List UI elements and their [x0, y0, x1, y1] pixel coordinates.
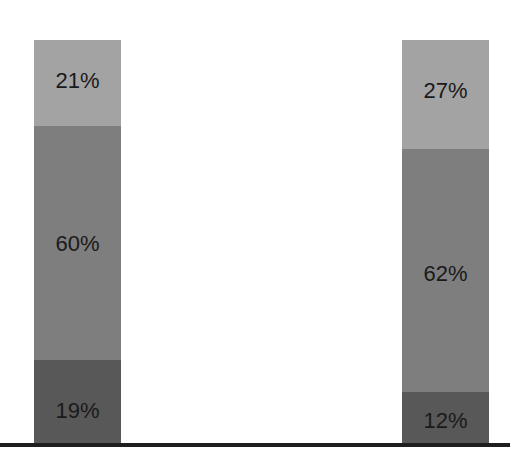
- bar-2-middle-segment: 62%: [402, 149, 489, 392]
- bar-2-bottom-label: 12%: [402, 408, 489, 434]
- x-axis-line: [0, 443, 510, 447]
- bar-1-middle-label: 60%: [34, 231, 121, 257]
- bar-2-top-label: 27%: [402, 78, 489, 104]
- bar-2: 27% 62% 12%: [402, 40, 489, 443]
- bar-1-top-segment: 21%: [34, 40, 121, 126]
- bar-1-bottom-segment: 19%: [34, 360, 121, 443]
- bar-2-top-segment: 27%: [402, 40, 489, 149]
- bar-2-middle-label: 62%: [402, 261, 489, 287]
- bar-1-top-label: 21%: [34, 68, 121, 94]
- bar-1-middle-segment: 60%: [34, 126, 121, 360]
- bar-2-bottom-segment: 12%: [402, 392, 489, 443]
- bar-1-bottom-label: 19%: [34, 398, 121, 424]
- bar-1: 21% 60% 19%: [34, 40, 121, 443]
